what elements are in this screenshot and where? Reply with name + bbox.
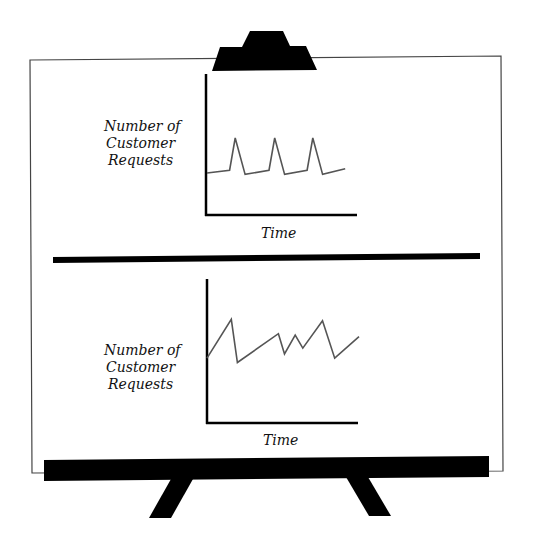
whiteboard xyxy=(30,56,503,473)
easel-diagram: Number of Customer Requests Time Number … xyxy=(0,0,543,547)
easel-top-clamp xyxy=(212,31,317,71)
y-label-line-3: Requests xyxy=(107,152,173,168)
y-label-line-1: Number of xyxy=(103,118,183,134)
easel-ledge xyxy=(44,456,489,481)
easel-leg-right xyxy=(346,477,391,516)
easel-leg-left xyxy=(149,479,193,518)
y-label-line-3: Requests xyxy=(107,376,173,392)
y-label-line-2: Customer xyxy=(106,359,177,375)
y-label-line-1: Number of xyxy=(103,342,183,358)
y-label-line-2: Customer xyxy=(106,135,177,151)
x-label: Time xyxy=(261,225,296,241)
x-label: Time xyxy=(263,432,298,448)
